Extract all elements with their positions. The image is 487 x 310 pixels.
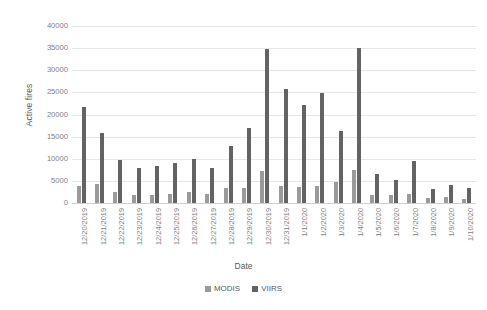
bar-group [256, 26, 274, 203]
x-axis-tick: 12/30/2019 [256, 206, 274, 260]
y-axis-tick-6: 30000 [47, 66, 68, 74]
bar-viirs[interactable] [302, 105, 306, 203]
x-axis-tick-label: 12/22/2019 [118, 208, 125, 245]
x-axis-tick: 12/28/2019 [219, 206, 237, 260]
bar-group [164, 26, 182, 203]
x-axis-tick: 12/27/2019 [201, 206, 219, 260]
bar-group [329, 26, 347, 203]
bar-modis[interactable] [352, 170, 356, 203]
bar-group [421, 26, 439, 203]
x-axis-tick-label: 1/3/2020 [338, 208, 345, 237]
bar-group [274, 26, 292, 203]
bar-group [219, 26, 237, 203]
x-axis-tick: 1/9/2020 [439, 206, 457, 260]
x-axis-tick-label: 1/6/2020 [393, 208, 400, 237]
x-axis-tick: 12/23/2019 [127, 206, 145, 260]
x-axis-tick-label: 1/5/2020 [375, 208, 382, 237]
bar-viirs[interactable] [284, 89, 288, 203]
x-axis-tick: 1/8/2020 [421, 206, 439, 260]
x-axis-tick-label: 1/4/2020 [357, 208, 364, 237]
legend-label: VIIRS [261, 284, 282, 293]
legend-label: MODIS [214, 284, 240, 293]
bar-group [145, 26, 163, 203]
bar-group [311, 26, 329, 203]
bar-modis[interactable] [113, 192, 117, 204]
bar-modis[interactable] [279, 186, 283, 203]
y-axis-tick-4: 20000 [47, 111, 68, 119]
x-axis-tick-label: 12/24/2019 [155, 208, 162, 245]
x-axis-tick-label: 12/21/2019 [100, 208, 107, 245]
bar-viirs[interactable] [192, 159, 196, 203]
bar-viirs[interactable] [247, 128, 251, 203]
y-axis-title: Active fires [22, 0, 36, 210]
bar-modis[interactable] [297, 187, 301, 203]
bar-modis[interactable] [150, 195, 154, 203]
legend-item-modis[interactable]: MODIS [205, 284, 240, 293]
x-axis-tick-label: 12/23/2019 [136, 208, 143, 245]
x-axis-tick-label: 1/8/2020 [430, 208, 437, 237]
y-axis-title-label: Active fires [24, 84, 34, 127]
bar-modis[interactable] [370, 195, 374, 203]
x-axis-tick: 1/10/2020 [458, 206, 476, 260]
bar-modis[interactable] [334, 182, 338, 203]
x-axis-tick: 12/29/2019 [237, 206, 255, 260]
bar-viirs[interactable] [375, 174, 379, 203]
bar-viirs[interactable] [210, 168, 214, 203]
x-axis-tick-labels: 12/20/201912/21/201912/22/201912/23/2019… [72, 206, 476, 260]
bar-modis[interactable] [260, 171, 264, 203]
bar-viirs[interactable] [357, 48, 361, 203]
bar-modis[interactable] [315, 186, 319, 203]
y-axis-tick-labels: 0500010000150002000025000300003500040000 [36, 20, 68, 203]
bar-viirs[interactable] [320, 93, 324, 203]
bar-modis[interactable] [205, 194, 209, 203]
bar-viirs[interactable] [449, 185, 453, 203]
y-axis-tick-1: 5000 [51, 177, 68, 185]
bar-group [109, 26, 127, 203]
bar-modis[interactable] [77, 186, 81, 203]
x-axis-tick-label: 12/25/2019 [173, 208, 180, 245]
y-axis-tick-3: 15000 [47, 133, 68, 141]
x-axis-tick: 12/24/2019 [145, 206, 163, 260]
y-axis-tick-2: 10000 [47, 155, 68, 163]
legend-swatch-icon [205, 286, 211, 292]
bar-viirs[interactable] [173, 163, 177, 203]
bar-viirs[interactable] [229, 146, 233, 203]
bar-group [366, 26, 384, 203]
bar-modis[interactable] [389, 195, 393, 203]
x-axis-tick-label: 1/7/2020 [412, 208, 419, 237]
bar-modis[interactable] [168, 194, 172, 203]
bar-group [384, 26, 402, 203]
x-axis-tick: 12/20/2019 [72, 206, 90, 260]
y-axis-tick-0: 0 [64, 199, 68, 207]
bar-viirs[interactable] [137, 168, 141, 203]
bar-modis[interactable] [132, 195, 136, 203]
bar-modis[interactable] [242, 188, 246, 203]
bar-viirs[interactable] [82, 107, 86, 203]
bar-viirs[interactable] [431, 189, 435, 203]
bar-modis[interactable] [407, 194, 411, 203]
x-axis-tick-label: 1/1/2020 [301, 208, 308, 237]
bar-viirs[interactable] [155, 166, 159, 203]
x-axis-tick-label: 1/9/2020 [448, 208, 455, 237]
bar-viirs[interactable] [339, 131, 343, 203]
bar-modis[interactable] [224, 188, 228, 203]
bar-viirs[interactable] [118, 160, 122, 203]
bar-modis[interactable] [95, 184, 99, 203]
x-axis-tick: 1/1/2020 [292, 206, 310, 260]
chart-legend: MODISVIIRS [0, 284, 487, 293]
x-axis-tick: 12/21/2019 [90, 206, 108, 260]
x-axis-tick: 12/26/2019 [182, 206, 200, 260]
x-axis-tick: 1/6/2020 [384, 206, 402, 260]
bar-modis[interactable] [187, 192, 191, 204]
bar-group [90, 26, 108, 203]
bar-viirs[interactable] [100, 133, 104, 203]
bar-group [292, 26, 310, 203]
x-axis-tick: 12/31/2019 [274, 206, 292, 260]
bar-viirs[interactable] [394, 180, 398, 203]
x-axis-title: Date [0, 261, 487, 271]
bar-viirs[interactable] [467, 188, 471, 203]
bar-viirs[interactable] [412, 161, 416, 203]
bar-viirs[interactable] [265, 49, 269, 203]
legend-item-viirs[interactable]: VIIRS [252, 284, 282, 293]
bar-group [402, 26, 420, 203]
